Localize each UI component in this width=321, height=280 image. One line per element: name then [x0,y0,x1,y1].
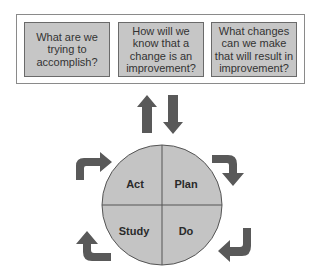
curved-arrow-bottom-right-icon [218,228,251,262]
pdsa-cycle-circle [102,145,222,265]
pdsa-diagram: Act Plan Study Do [0,0,321,280]
quadrant-plan-label: Plan [174,178,198,190]
up-arrow-icon [137,95,157,133]
quadrant-study-label: Study [119,225,150,237]
curved-arrow-top-left-icon [76,152,112,180]
quadrant-act-label: Act [126,178,144,190]
curved-arrow-bottom-left-icon [76,231,111,261]
down-arrow-icon [163,95,183,134]
quadrant-do-label: Do [179,225,194,237]
